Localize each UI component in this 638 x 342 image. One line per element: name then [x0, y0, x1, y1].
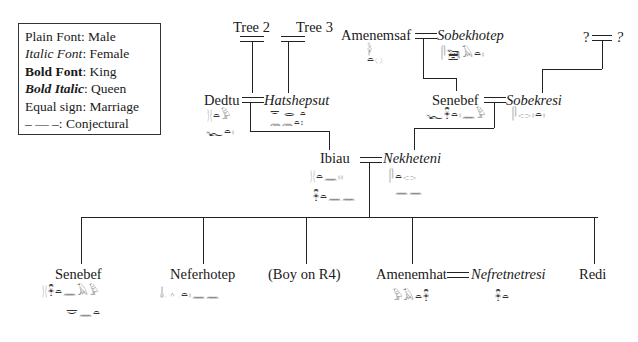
- person-neferhotep: Neferhotep: [170, 266, 235, 282]
- legend-row-plain: Plain Font: Male: [25, 28, 160, 45]
- person-tree2: Tree 2: [233, 19, 270, 35]
- marriage-sign-amenemhat-nefretnetresi: [447, 272, 469, 278]
- line-amenemsaf-senebef: [456, 78, 457, 91]
- hieroglyphs-nefretnetresi: 𓋹𓏏: [495, 290, 510, 303]
- person-amenemsaf: Amenemsaf: [341, 27, 411, 43]
- person-hatshepsut: Hatshepsut: [264, 92, 329, 108]
- hieroglyphs-dedtu-line1: 𓊽𓏏𓅱: [207, 109, 231, 122]
- person-redi: Redi: [579, 266, 606, 282]
- person-sobekhotep: Sobekhotep: [437, 27, 504, 43]
- hieroglyphs-nekheteni-line1: 𓋴𓏏𓂋: [389, 170, 417, 183]
- line-unknown-down: [602, 41, 603, 69]
- person-senebef-child: Senebef: [55, 266, 102, 282]
- line-dedtu-down: [250, 103, 251, 131]
- hieroglyphs-neferhotep: 𓄤𓊵𓏏𓏤𓈖𓈖: [160, 288, 220, 301]
- hieroglyphs-dedtu-line2: 𓆑𓏏𓏤: [206, 125, 235, 138]
- line-to-boy: [306, 217, 307, 264]
- hieroglyphs-senebef-child-line1: 𓊽𓋹𓏏𓈖𓄿𓅱: [42, 285, 99, 298]
- person-ibiau: Ibiau: [320, 150, 350, 166]
- hieroglyphs-nekheteni-line2: 𓈖𓈖: [395, 184, 423, 197]
- person-senebef-parent: Senebef: [432, 92, 479, 108]
- hieroglyphs-ibiau-line2: 𓋹𓏏𓈖𓈖: [313, 190, 356, 203]
- person-unknown-father: ?: [583, 29, 589, 45]
- hieroglyphs-sobekresi: 𓋴𓂋𓏤𓏏𓏤: [512, 108, 546, 121]
- legend-row-marriage: Equal sign: Marriage: [25, 98, 160, 115]
- person-boy-on-r4: (Boy on R4): [268, 266, 341, 282]
- hieroglyphs-ibiau-line1: 𓊽𓏏𓈖𓏤𓏤: [310, 170, 344, 183]
- line-to-redi: [594, 217, 595, 264]
- line-to-amenemhat: [412, 217, 413, 264]
- person-tree3: Tree 3: [296, 19, 333, 35]
- person-nefretnetresi: Nefretnetresi: [471, 266, 546, 282]
- line-senebef-down: [494, 103, 495, 128]
- marriage-sign-amenemsaf-sobekhotep: [415, 33, 437, 39]
- legend-row-bold: Bold Font: King: [25, 63, 160, 80]
- line-ibiau-children: [369, 163, 370, 217]
- line-tree3-hatshepsut: [288, 42, 289, 93]
- line-unknown-sobekresi: [542, 69, 543, 93]
- marriage-sign-ibiau-nekheteni: [360, 157, 382, 163]
- hieroglyphs-sobekhotep: 𓋴𓆋𓄿𓏏𓏤: [441, 47, 485, 60]
- line-amenemsaf-down: [423, 39, 424, 78]
- legend-box: Plain Font: Male Italic Font: Female Bol…: [18, 23, 161, 135]
- hieroglyphs-amenemhat: 𓅱𓄿𓏏𓋹: [393, 290, 430, 303]
- line-dedtu-ibiau: [329, 131, 330, 150]
- person-dedtu: Dedtu: [204, 92, 239, 108]
- line-to-senebef: [81, 217, 82, 264]
- line-amenemsaf-across: [423, 78, 456, 79]
- marriage-sign-dedtu-hatshepsut: [242, 97, 264, 103]
- hieroglyphs-hatshepsut-line2: 𓈖𓈖𓏏𓏤: [270, 116, 304, 129]
- legend-row-italic: Italic Font: Female: [25, 45, 160, 62]
- person-unknown-mother: ?: [616, 29, 623, 45]
- hieroglyphs-senebef-parent: 𓆑𓋹𓏏𓏤𓈖𓅱: [426, 108, 486, 121]
- hieroglyphs-senebef-child-line2: 𓎟𓈖𓏏: [66, 306, 101, 319]
- marriage-sign-senebef-sobekresi: [484, 97, 506, 103]
- line-tree2-dedtu: [252, 42, 253, 93]
- person-amenemhat: Amenemhat: [376, 266, 447, 282]
- line-dedtu-across: [250, 131, 329, 132]
- line-senebef-across: [414, 128, 494, 129]
- legend-row-conjectural: – — –: Conjectural: [25, 115, 160, 132]
- person-sobekresi: Sobekresi: [506, 92, 562, 108]
- line-to-neferhotep: [203, 217, 204, 264]
- line-senebef-nekheteni: [414, 128, 415, 150]
- hieroglyphs-amenemsaf: 𓋀𓏏𓐍: [367, 45, 383, 65]
- line-unknown-across: [542, 69, 602, 70]
- legend-row-bold-italic: Bold Italic: Queen: [25, 80, 160, 97]
- line-children-bar: [81, 217, 598, 218]
- person-nekheteni: Nekheteni: [383, 150, 441, 166]
- marriage-sign-tree3: [281, 36, 305, 42]
